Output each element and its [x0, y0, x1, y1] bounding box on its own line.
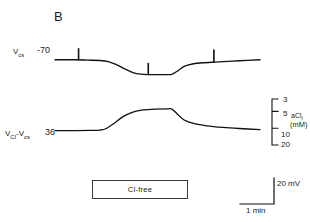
- trace-vcs-spikes: [79, 49, 214, 75]
- trace-vcs-line: [55, 60, 260, 75]
- trace-vcl-line: [55, 109, 260, 131]
- trace-plot-svg: [0, 0, 310, 222]
- right-axis-acl: [272, 99, 278, 145]
- figure-panel-b: B Vcs -70 VCl-Vcs 36 3 5 10 20 aCli (mM)…: [0, 0, 310, 222]
- calibration-scale-bars: [240, 178, 274, 204]
